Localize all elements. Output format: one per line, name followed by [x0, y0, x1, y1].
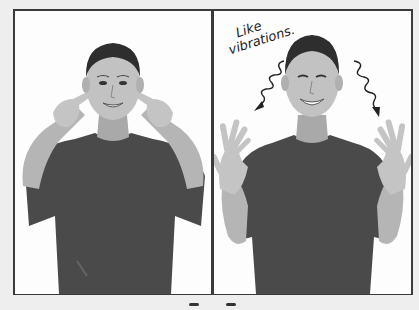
- bottom-crop-mark: [226, 303, 236, 306]
- panel-left-pointing-ears: [15, 11, 211, 294]
- figure-frame: Like vibrations.: [13, 9, 413, 296]
- squiggly-arrow-right-icon: [354, 61, 380, 117]
- panel-right-vibrations: Like vibrations.: [214, 11, 411, 294]
- bottom-margin: [0, 295, 419, 310]
- squiggly-arrow-left-icon: [254, 61, 284, 111]
- boy-pointing-ears-illustration: [15, 11, 211, 294]
- bottom-crop-mark: [189, 303, 199, 306]
- boy-open-hands-illustration: [214, 11, 411, 294]
